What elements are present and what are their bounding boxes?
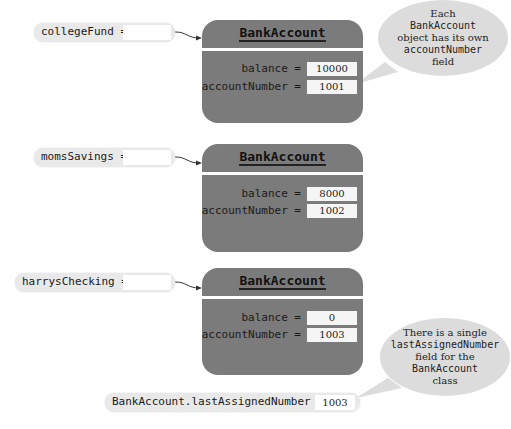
class-name: BankAccount [239, 25, 325, 42]
callout-line: object has its own [378, 32, 508, 44]
field-label: accountNumber = [202, 328, 301, 341]
reference-field [123, 275, 171, 290]
callout-code: BankAccount [380, 363, 510, 375]
callout-code: accountNumber [378, 44, 508, 56]
field-label: balance = [241, 311, 301, 324]
class-name: BankAccount [239, 273, 325, 290]
bank-account-object-2: BankAccount balance =8000 accountNumber … [202, 144, 363, 252]
variable-name: harrysChecking = [22, 275, 128, 288]
callout-line: There is a single [380, 327, 510, 339]
variable-harrys-checking: harrysChecking = [15, 273, 175, 292]
divider [202, 48, 363, 51]
reference-field [123, 150, 171, 165]
balance-value: 0 [307, 311, 357, 325]
callout-line: field [378, 56, 508, 68]
account-number-value: 1002 [307, 204, 357, 218]
reference-field [123, 25, 171, 40]
static-field-value: 1003 [315, 395, 355, 410]
variable-name: momsSavings = [41, 150, 127, 163]
callout-code: lastAssignedNumber [380, 339, 510, 351]
bank-account-object-3: BankAccount balance =0 accountNumber =10… [202, 268, 363, 375]
callout-account-number: Each BankAccount object has its own acco… [378, 0, 508, 76]
callout-line: class [380, 375, 510, 387]
variable-name: collegeFund = [41, 25, 127, 38]
field-label: accountNumber = [202, 80, 301, 93]
divider [202, 172, 363, 175]
bank-account-object-1: BankAccount balance =10000 accountNumber… [202, 20, 363, 123]
field-label: balance = [241, 62, 301, 75]
balance-value: 8000 [307, 187, 357, 201]
callout-line: field for the [380, 351, 510, 363]
static-field-last-assigned-number: BankAccount.lastAssignedNumber = 1003 [105, 393, 360, 412]
balance-value: 10000 [307, 62, 357, 76]
callout-line: Each [378, 8, 508, 20]
static-field-label: BankAccount.lastAssignedNumber = [112, 395, 324, 408]
callout-code: BankAccount [378, 20, 508, 32]
class-name: BankAccount [239, 149, 325, 166]
divider [202, 296, 363, 299]
field-label: balance = [241, 187, 301, 200]
callout-last-assigned-number: There is a single lastAssignedNumber fie… [380, 318, 510, 396]
account-number-value: 1003 [307, 328, 357, 342]
account-number-value: 1001 [307, 80, 357, 94]
variable-college-fund: collegeFund = [34, 23, 175, 42]
field-label: accountNumber = [202, 204, 301, 217]
variable-moms-savings: momsSavings = [34, 148, 175, 167]
